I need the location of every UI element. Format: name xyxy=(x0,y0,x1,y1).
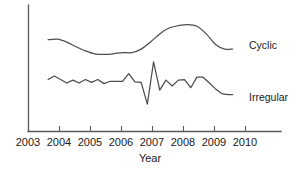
series-label-irregular: Irregular xyxy=(249,91,289,103)
x-axis-title: Year xyxy=(139,152,162,164)
series-label-cyclic: Cyclic xyxy=(249,39,277,51)
x-tick-label-2004: 2004 xyxy=(47,136,71,148)
x-tick-label-2007: 2007 xyxy=(140,136,164,148)
x-tick-label-2005: 2005 xyxy=(78,136,102,148)
chart-figure: 2003 2004 2005 2006 2007 2008 2009 2010 … xyxy=(0,0,296,169)
x-tick-label-2009: 2009 xyxy=(202,136,226,148)
chart-canvas: 2003 2004 2005 2006 2007 2008 2009 2010 … xyxy=(0,0,296,169)
x-tick-label-2006: 2006 xyxy=(109,136,133,148)
x-tick-label-2010: 2010 xyxy=(233,136,257,148)
x-tick-label-2003: 2003 xyxy=(16,136,40,148)
x-tick-label-2008: 2008 xyxy=(171,136,195,148)
